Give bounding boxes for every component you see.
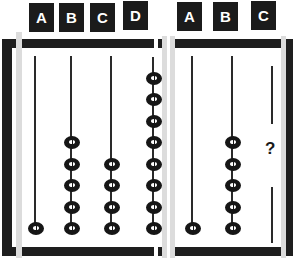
right-label-b: B (213, 2, 238, 31)
bead (64, 179, 80, 192)
left-label-d: D (123, 1, 148, 30)
right-label-a: A (177, 2, 202, 31)
bead (146, 93, 162, 106)
bead (146, 115, 162, 128)
bead (64, 201, 80, 214)
bead (225, 158, 241, 171)
bead (104, 201, 120, 214)
bead (225, 136, 241, 149)
bead (64, 158, 80, 171)
bead (146, 136, 162, 149)
right-label-c: C (251, 1, 276, 30)
left-rod-a (34, 56, 36, 226)
right-rod-a (191, 56, 193, 226)
bead (225, 179, 241, 192)
bead (146, 201, 162, 214)
bead (225, 222, 241, 235)
right-rod-c-upper (271, 66, 273, 124)
bead (146, 179, 162, 192)
bead (104, 222, 120, 235)
ghost-bar-mid-2 (170, 36, 175, 258)
bead (225, 201, 241, 214)
left-label-c: C (90, 3, 115, 32)
bead (146, 222, 162, 235)
frame-top-left (2, 39, 154, 48)
frame-bottom-left (2, 247, 154, 256)
ghost-bar-mid-1 (162, 36, 167, 258)
left-label-a: A (29, 3, 54, 32)
ghost-bar-left (16, 32, 22, 258)
bead (64, 222, 80, 235)
bead (185, 222, 201, 235)
bead (28, 222, 44, 235)
unknown-value-question-mark: ? (265, 139, 275, 159)
frame-top-right (172, 39, 281, 48)
ghost-bar-right (281, 36, 286, 258)
bead (146, 72, 162, 85)
bead (104, 179, 120, 192)
frame-left (2, 39, 12, 256)
right-rod-c-lower (271, 187, 273, 243)
bead (146, 158, 162, 171)
frame-bottom-right (172, 247, 281, 256)
bead (64, 136, 80, 149)
left-label-b: B (59, 3, 84, 32)
bead (104, 158, 120, 171)
